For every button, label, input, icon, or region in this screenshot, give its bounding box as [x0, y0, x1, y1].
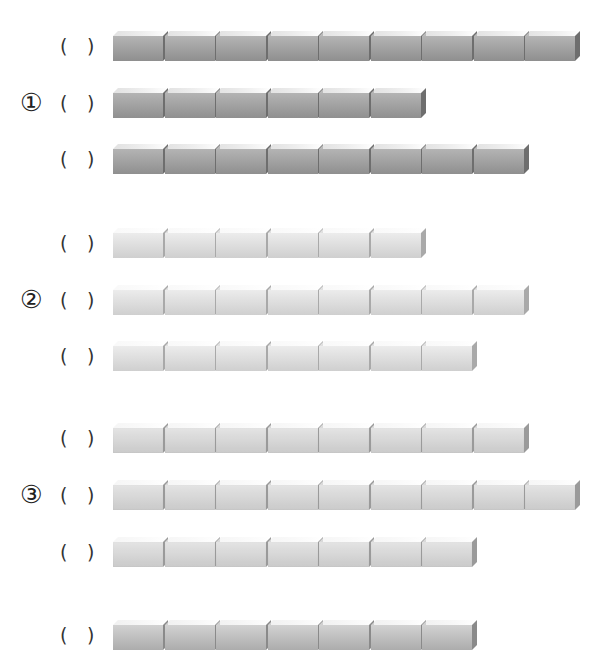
block-icon — [371, 480, 423, 510]
close-parenthesis: ) — [87, 146, 94, 172]
block-icon — [422, 537, 474, 567]
block-icon — [422, 620, 474, 650]
answer-blank[interactable] — [68, 90, 86, 116]
block-icon — [216, 88, 268, 118]
open-parenthesis: ( — [60, 482, 67, 508]
block-icon — [319, 620, 371, 650]
block-bar — [113, 88, 422, 118]
close-parenthesis: ) — [87, 33, 94, 59]
open-parenthesis: ( — [60, 90, 67, 116]
block-icon — [113, 341, 165, 371]
block-icon — [113, 31, 165, 61]
block-icon — [268, 341, 320, 371]
block-icon — [216, 31, 268, 61]
block-icon — [165, 88, 217, 118]
block-icon — [422, 341, 474, 371]
block-icon — [371, 88, 423, 118]
block-icon — [319, 537, 371, 567]
block-icon — [165, 144, 217, 174]
block-icon — [474, 480, 526, 510]
block-bar — [113, 423, 525, 453]
block-bar — [113, 620, 474, 650]
answer-blank[interactable] — [68, 622, 86, 648]
block-icon — [319, 88, 371, 118]
block-icon — [371, 620, 423, 650]
block-icon — [525, 480, 577, 510]
block-icon — [113, 620, 165, 650]
block-icon — [268, 620, 320, 650]
block-icon — [165, 341, 217, 371]
block-bar — [113, 285, 525, 315]
group-number-label: ① — [20, 89, 42, 117]
block-icon — [113, 423, 165, 453]
block-icon — [371, 285, 423, 315]
block-icon — [319, 31, 371, 61]
open-parenthesis: ( — [60, 343, 67, 369]
block-icon — [371, 537, 423, 567]
block-icon — [113, 537, 165, 567]
block-icon — [216, 285, 268, 315]
block-icon — [165, 31, 217, 61]
block-icon — [422, 31, 474, 61]
close-parenthesis: ) — [87, 622, 94, 648]
block-icon — [216, 480, 268, 510]
block-icon — [216, 228, 268, 258]
block-icon — [216, 144, 268, 174]
block-icon — [165, 537, 217, 567]
block-icon — [165, 480, 217, 510]
group-number-label: ② — [20, 286, 42, 314]
block-icon — [268, 285, 320, 315]
close-parenthesis: ) — [87, 482, 94, 508]
block-bar — [113, 228, 422, 258]
answer-blank[interactable] — [68, 425, 86, 451]
block-icon — [371, 341, 423, 371]
block-icon — [422, 285, 474, 315]
block-icon — [216, 537, 268, 567]
open-parenthesis: ( — [60, 287, 67, 313]
block-icon — [371, 228, 423, 258]
answer-blank[interactable] — [68, 146, 86, 172]
close-parenthesis: ) — [87, 287, 94, 313]
open-parenthesis: ( — [60, 622, 67, 648]
block-bar — [113, 537, 474, 567]
block-icon — [165, 423, 217, 453]
block-icon — [268, 423, 320, 453]
block-icon — [165, 285, 217, 315]
block-icon — [422, 480, 474, 510]
answer-blank[interactable] — [68, 482, 86, 508]
block-icon — [113, 228, 165, 258]
block-bar — [113, 341, 474, 371]
close-parenthesis: ) — [87, 230, 94, 256]
block-bar — [113, 480, 577, 510]
open-parenthesis: ( — [60, 539, 67, 565]
open-parenthesis: ( — [60, 146, 67, 172]
block-icon — [319, 480, 371, 510]
answer-blank[interactable] — [68, 230, 86, 256]
block-icon — [113, 285, 165, 315]
answer-blank[interactable] — [68, 287, 86, 313]
open-parenthesis: ( — [60, 425, 67, 451]
block-icon — [319, 228, 371, 258]
block-icon — [319, 144, 371, 174]
answer-blank[interactable] — [68, 343, 86, 369]
block-icon — [113, 144, 165, 174]
block-icon — [422, 144, 474, 174]
block-icon — [216, 423, 268, 453]
block-icon — [268, 537, 320, 567]
block-bar — [113, 144, 525, 174]
block-icon — [216, 341, 268, 371]
block-icon — [113, 480, 165, 510]
block-icon — [371, 423, 423, 453]
answer-blank[interactable] — [68, 539, 86, 565]
block-icon — [371, 31, 423, 61]
block-icon — [319, 423, 371, 453]
block-bar — [113, 31, 577, 61]
block-icon — [474, 285, 526, 315]
open-parenthesis: ( — [60, 33, 67, 59]
block-icon — [371, 144, 423, 174]
block-icon — [268, 144, 320, 174]
block-icon — [165, 620, 217, 650]
answer-blank[interactable] — [68, 33, 86, 59]
block-icon — [474, 144, 526, 174]
block-icon — [268, 228, 320, 258]
